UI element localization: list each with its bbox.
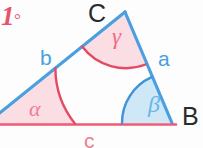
angle-fill-group bbox=[0, 12, 172, 124]
angle-label-gamma: γ bbox=[112, 25, 121, 48]
side-label-b: b bbox=[40, 47, 52, 68]
angle-label-beta: β bbox=[148, 92, 160, 116]
corner-marker: 1° bbox=[1, 3, 19, 30]
corner-marker-number: 1 bbox=[1, 1, 14, 31]
side-label-a: a bbox=[158, 48, 170, 69]
degree-icon: ° bbox=[14, 10, 20, 29]
vertex-label-c: C bbox=[88, 1, 106, 26]
diagram-canvas: 1° C B a b c α β γ bbox=[0, 0, 203, 148]
beta-angle-fill bbox=[122, 77, 172, 123]
side-label-c: c bbox=[84, 130, 95, 148]
angle-label-alpha: α bbox=[29, 98, 41, 120]
vertex-label-b: B bbox=[182, 104, 199, 129]
